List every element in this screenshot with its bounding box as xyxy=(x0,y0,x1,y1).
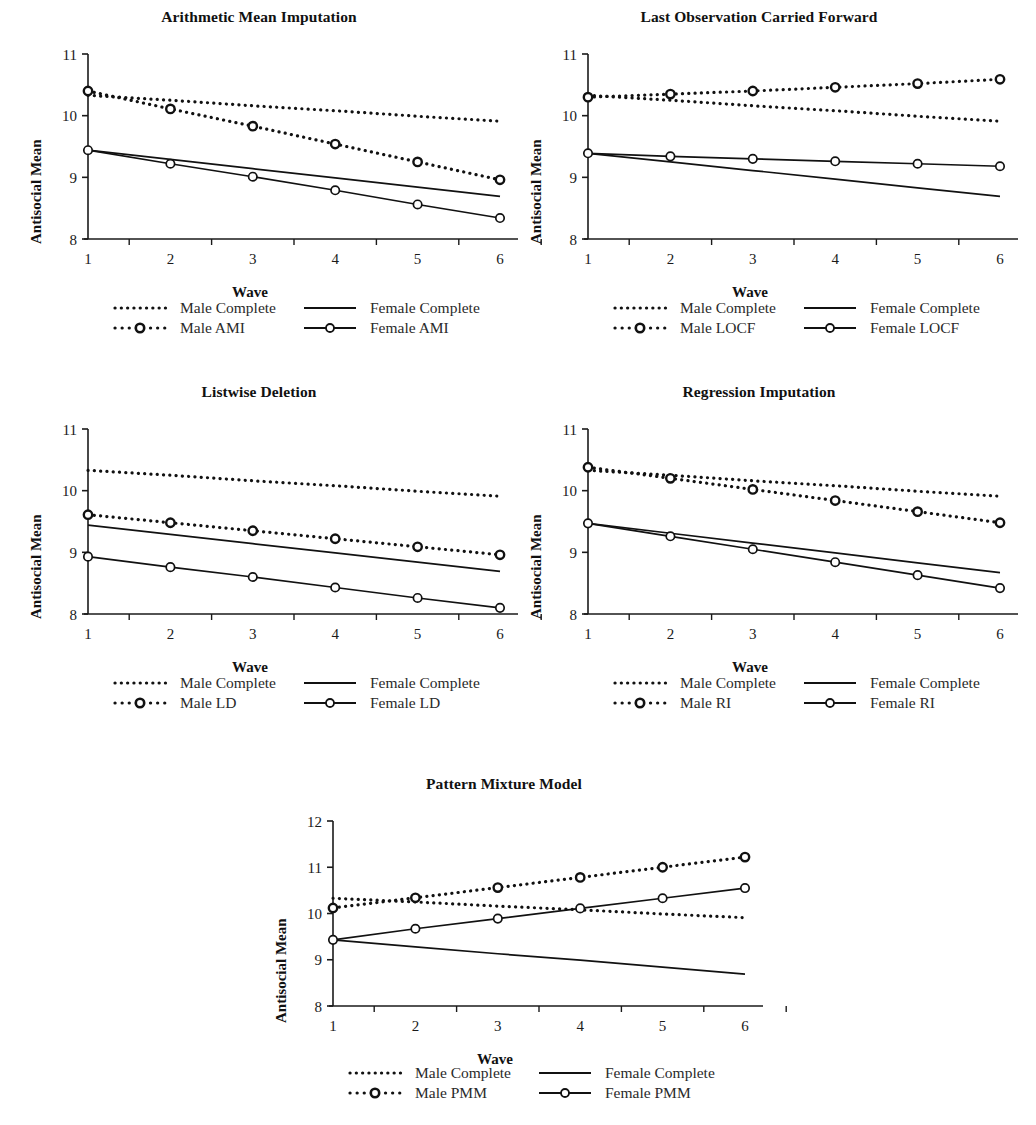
legend-key-0 xyxy=(112,673,180,693)
svg-text:1: 1 xyxy=(584,626,592,642)
svg-text:1: 1 xyxy=(584,251,592,267)
svg-text:11: 11 xyxy=(63,47,77,63)
legend-key-0 xyxy=(612,298,680,318)
svg-text:10: 10 xyxy=(62,483,77,499)
y-axis-label-ri: Antisocial Mean xyxy=(528,514,545,619)
legend-key-3 xyxy=(302,318,370,338)
svg-text:5: 5 xyxy=(414,626,422,642)
panel-locf: Last Observation Carried Forward Antisoc… xyxy=(500,8,1018,378)
legend-label-2: Male LOCF xyxy=(680,318,802,338)
panel-pmm: Pattern Mixture Model Antisocial Mean 89… xyxy=(245,775,763,1125)
legend-key-1 xyxy=(537,1063,605,1083)
legend-key-3 xyxy=(537,1083,605,1103)
svg-text:3: 3 xyxy=(249,626,257,642)
svg-text:10: 10 xyxy=(562,483,577,499)
svg-text:5: 5 xyxy=(914,251,922,267)
y-axis-label-pmm: Antisocial Mean xyxy=(273,918,290,1023)
chart-svg-ami: 891011123456 xyxy=(0,44,518,279)
y-axis-label-ami: Antisocial Mean xyxy=(28,139,45,244)
svg-text:5: 5 xyxy=(414,251,422,267)
plot-area-ri: Antisocial Mean 891011123456 Wave xyxy=(500,419,1018,654)
y-axis-label-locf: Antisocial Mean xyxy=(528,139,545,244)
legend-key-3 xyxy=(302,693,370,713)
chart-svg-locf: 891011123456 xyxy=(500,44,1018,279)
legend-label-3: Female LD xyxy=(370,693,506,713)
panel-ami: Arithmetic Mean Imputation Antisocial Me… xyxy=(0,8,518,378)
legend-label-1: Female Complete xyxy=(370,673,506,693)
svg-text:11: 11 xyxy=(308,860,322,876)
legend-label-0: Male Complete xyxy=(680,673,802,693)
svg-text:4: 4 xyxy=(831,251,839,267)
legend-label-1: Female Complete xyxy=(870,673,1006,693)
legend-ld: Male Complete Female Complete Male LD Fe… xyxy=(112,673,506,713)
svg-text:9: 9 xyxy=(570,545,578,561)
legend-label-0: Male Complete xyxy=(680,298,802,318)
legend-label-1: Female Complete xyxy=(605,1063,741,1083)
svg-text:8: 8 xyxy=(315,999,323,1015)
legend-ri: Male Complete Female Complete Male RI Fe… xyxy=(612,673,1006,713)
svg-text:5: 5 xyxy=(914,626,922,642)
legend-pmm: Male Complete Female Complete Male PMM F… xyxy=(347,1063,741,1103)
panel-title-ri: Regression Imputation xyxy=(500,383,1018,401)
svg-text:2: 2 xyxy=(412,1018,420,1034)
plot-area-ld: Antisocial Mean 891011123456 Wave xyxy=(0,419,518,654)
svg-text:4: 4 xyxy=(831,626,839,642)
svg-text:6: 6 xyxy=(996,626,1004,642)
panel-title-ami: Arithmetic Mean Imputation xyxy=(0,8,518,26)
legend-key-0 xyxy=(112,298,180,318)
plot-area-locf: Antisocial Mean 891011123456 Wave xyxy=(500,44,1018,279)
svg-text:8: 8 xyxy=(570,607,578,623)
svg-text:5: 5 xyxy=(659,1018,667,1034)
chart-svg-pmm: 89101112123456 xyxy=(245,811,763,1046)
chart-svg-ld: 891011123456 xyxy=(0,419,518,654)
legend-label-0: Male Complete xyxy=(180,673,302,693)
legend-key-2 xyxy=(112,318,180,338)
legend-label-2: Male PMM xyxy=(415,1083,537,1103)
svg-text:4: 4 xyxy=(331,626,339,642)
svg-text:3: 3 xyxy=(749,626,757,642)
svg-text:2: 2 xyxy=(167,626,175,642)
legend-label-2: Male AMI xyxy=(180,318,302,338)
legend-key-1 xyxy=(302,673,370,693)
legend-label-3: Female PMM xyxy=(605,1083,741,1103)
panel-title-locf: Last Observation Carried Forward xyxy=(500,8,1018,26)
panel-ld: Listwise Deletion Antisocial Mean 891011… xyxy=(0,383,518,753)
panel-title-pmm: Pattern Mixture Model xyxy=(245,775,763,793)
legend-label-2: Male LD xyxy=(180,693,302,713)
plot-area-pmm: Antisocial Mean 89101112123456 Wave xyxy=(245,811,763,1046)
svg-text:10: 10 xyxy=(562,108,577,124)
svg-text:6: 6 xyxy=(741,1018,749,1034)
svg-text:12: 12 xyxy=(307,814,322,830)
legend-label-3: Female LOCF xyxy=(870,318,1006,338)
svg-text:8: 8 xyxy=(70,232,78,248)
svg-text:8: 8 xyxy=(570,232,578,248)
svg-text:6: 6 xyxy=(996,251,1004,267)
svg-text:2: 2 xyxy=(667,626,675,642)
svg-text:1: 1 xyxy=(329,1018,337,1034)
chart-svg-ri: 891011123456 xyxy=(500,419,1018,654)
y-axis-label-ld: Antisocial Mean xyxy=(28,514,45,619)
legend-key-0 xyxy=(347,1063,415,1083)
svg-text:9: 9 xyxy=(570,170,578,186)
legend-key-1 xyxy=(802,298,870,318)
svg-text:1: 1 xyxy=(84,251,92,267)
svg-text:3: 3 xyxy=(249,251,257,267)
legend-label-1: Female Complete xyxy=(370,298,506,318)
svg-text:10: 10 xyxy=(62,108,77,124)
legend-key-1 xyxy=(802,673,870,693)
legend-key-3 xyxy=(802,318,870,338)
svg-text:9: 9 xyxy=(70,545,78,561)
legend-key-0 xyxy=(612,673,680,693)
svg-text:4: 4 xyxy=(331,251,339,267)
svg-text:2: 2 xyxy=(167,251,175,267)
legend-key-2 xyxy=(612,318,680,338)
svg-text:11: 11 xyxy=(63,422,77,438)
legend-label-0: Male Complete xyxy=(415,1063,537,1083)
legend-label-3: Female AMI xyxy=(370,318,506,338)
legend-label-1: Female Complete xyxy=(870,298,1006,318)
svg-text:11: 11 xyxy=(563,422,577,438)
svg-text:9: 9 xyxy=(70,170,78,186)
svg-text:2: 2 xyxy=(667,251,675,267)
legend-label-0: Male Complete xyxy=(180,298,302,318)
svg-text:3: 3 xyxy=(494,1018,502,1034)
